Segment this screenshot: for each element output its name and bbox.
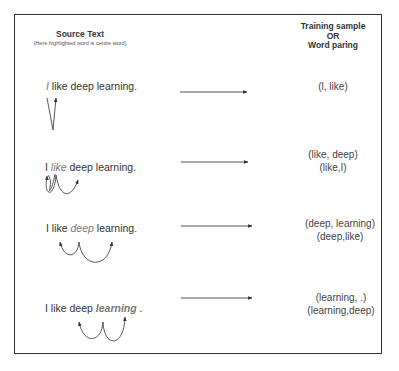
context-arc-row-4-right	[103, 317, 125, 341]
context-arc-row-2-right	[56, 175, 78, 194]
context-arc-row-3-right	[79, 242, 112, 262]
context-arc-row-2a	[48, 174, 55, 191]
context-arc-row-4-left	[79, 322, 103, 339]
context-arc-row-1	[47, 98, 56, 130]
arrows-layer	[0, 0, 399, 371]
context-arc-row-3-left	[60, 242, 79, 255]
